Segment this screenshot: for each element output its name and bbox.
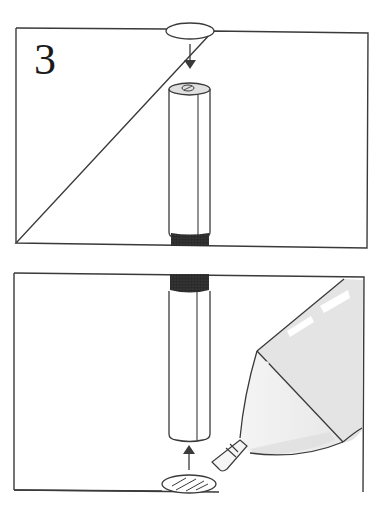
dark-band-top bbox=[170, 274, 209, 293]
arrow-up-icon bbox=[183, 445, 195, 470]
arrow-down-icon bbox=[184, 44, 196, 69]
top-panel bbox=[16, 23, 368, 248]
dark-band-bottom bbox=[171, 233, 209, 246]
bottle-nozzle bbox=[212, 440, 247, 471]
glue-bottle-icon bbox=[212, 279, 363, 471]
cylinder-stick-bottom bbox=[169, 274, 210, 442]
step-number: 3 bbox=[34, 38, 56, 82]
bottom-panel bbox=[14, 273, 364, 493]
hatched-oval-icon bbox=[162, 475, 216, 493]
oval-piece-icon bbox=[166, 23, 214, 39]
instruction-illustration bbox=[0, 0, 388, 511]
cylinder-stick-top bbox=[169, 83, 210, 246]
